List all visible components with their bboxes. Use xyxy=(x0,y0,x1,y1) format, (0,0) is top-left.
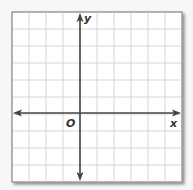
x-axis-label: x xyxy=(169,117,178,130)
origin-label: O xyxy=(66,117,75,130)
coordinate-plane: y x O xyxy=(0,0,193,190)
y-axis-label: y xyxy=(84,12,92,25)
